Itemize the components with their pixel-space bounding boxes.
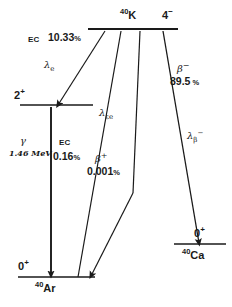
beta-plus-sign: + <box>101 151 108 160</box>
beta-minus-percent-sign: % <box>192 78 199 87</box>
beta-plus-transition-arrow <box>91 193 133 276</box>
argon-nuclide-label: 40Ar <box>35 281 56 294</box>
calcium-nuclide-label: 40Ca <box>182 248 204 261</box>
beta-plus-transition-line <box>133 31 140 193</box>
gamma-energy-label: 1.46 MeV <box>9 149 51 157</box>
ec-ground-mode-label: EC <box>59 139 71 147</box>
ec-ground-rate-label: λεe <box>99 108 113 121</box>
beta-minus-branch-label: 89.5% <box>170 76 199 87</box>
lambda-subscript: εe <box>105 113 113 121</box>
gamma-symbol-label: γ <box>20 136 26 147</box>
ec-excited-branch-value: 10.33 <box>48 31 74 43</box>
beta-minus-symbol-label: β− <box>177 62 189 75</box>
lambda-subscript: e <box>50 65 54 73</box>
ec-excited-mode-label: EC <box>28 36 40 44</box>
beta-minus-branch-value: 89.5 <box>170 75 190 87</box>
beta-plus-percent-sign: % <box>113 168 120 177</box>
ec-excited-branch-label: 10.33% <box>48 32 81 43</box>
beta-plus-branch-value: 0.001 <box>87 165 113 177</box>
calcium-element-symbol: Ca <box>190 249 204 261</box>
parent-parity: − <box>168 7 173 16</box>
ec-excited-percent-sign: % <box>74 34 81 43</box>
argon-excited-parity: + <box>20 87 25 96</box>
ec-ground-branch-value: 0.16 <box>53 150 73 162</box>
lambda-superscript: − <box>197 129 203 137</box>
parent-nuclide-label: 40K <box>120 8 136 21</box>
beta-plus-symbol-label: β+ <box>95 152 107 165</box>
ec-ground-branch-label: 0.16% <box>53 151 80 162</box>
argon-ground-spin-parity-label: 0+ <box>18 259 29 272</box>
calcium-parity: + <box>200 225 205 234</box>
parent-spin-parity-label: 4− <box>162 8 173 21</box>
calcium-spin-parity-label: 0+ <box>194 226 205 239</box>
ec-ground-percent-sign: % <box>73 153 80 162</box>
parent-element-symbol: K <box>128 9 136 21</box>
argon-excited-spin-parity-label: 2+ <box>14 88 25 101</box>
decay-scheme-diagram: 40K 4− EC 10.33% λe 2+ γ 1.46 MeV EC 0.1… <box>0 0 232 307</box>
ec-excited-rate-label: λe <box>44 60 55 73</box>
argon-element-symbol: Ar <box>43 282 55 294</box>
beta-minus-rate-label: λβ− <box>187 130 203 145</box>
argon-ground-parity: + <box>24 258 29 267</box>
beta-minus-sign: − <box>183 61 190 70</box>
beta-plus-branch-label: 0.001% <box>87 166 120 177</box>
lambda-subscript: β <box>193 136 197 144</box>
